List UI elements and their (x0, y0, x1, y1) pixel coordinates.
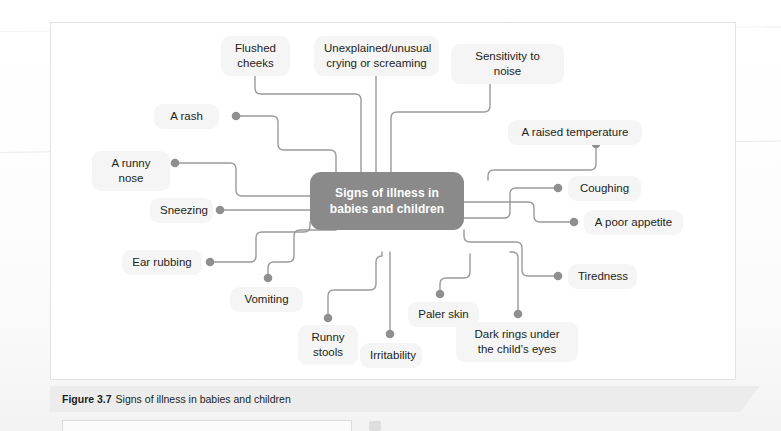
figure-number: Figure 3.7 (62, 393, 112, 405)
node-sneezing[interactable]: Sneezing (150, 198, 213, 223)
page-fold-corner (740, 386, 760, 412)
figure-caption-text: Signs of illness in babies and children (116, 393, 291, 405)
center-node-signs-of-illness[interactable]: Signs of illness in babies and children (310, 172, 464, 230)
next-element-marker (369, 421, 381, 431)
figure-caption: Figure 3.7 Signs of illness in babies an… (50, 386, 740, 412)
node-coughing[interactable]: Coughing (568, 176, 641, 201)
node-dark-rings[interactable]: Dark rings under the child’s eyes (456, 322, 578, 362)
node-runny-stools[interactable]: Runny stools (298, 325, 358, 365)
node-ear-rubbing[interactable]: Ear rubbing (122, 250, 202, 275)
node-a-runny-nose[interactable]: A runny nose (92, 151, 170, 191)
node-raised-temperature[interactable]: A raised temperature (508, 120, 642, 145)
mind-map-diagram: Flushed cheeks Unexplained/unusual cryin… (50, 22, 736, 380)
node-a-rash[interactable]: A rash (154, 104, 219, 129)
node-tiredness[interactable]: Tiredness (568, 264, 637, 289)
node-irritability[interactable]: Irritability (360, 343, 422, 368)
node-flushed-cheeks[interactable]: Flushed cheeks (221, 36, 290, 76)
next-element-edge (62, 420, 352, 431)
node-unexplained-crying[interactable]: Unexplained/unusual crying or screaming (314, 36, 439, 76)
node-vomiting[interactable]: Vomiting (230, 287, 303, 312)
node-poor-appetite[interactable]: A poor appetite (584, 210, 683, 235)
node-sensitivity-to-noise[interactable]: Sensitivity to noise (451, 44, 564, 84)
